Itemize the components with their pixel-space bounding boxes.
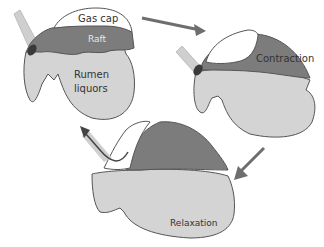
stage-contraction: Contraction <box>176 30 315 137</box>
stage-resting: Gas cap Raft Rumen liquors <box>14 8 135 119</box>
arrow-resting-to-contraction <box>142 18 206 36</box>
stage-relaxation: Relaxation <box>80 121 235 238</box>
label-contraction: Contraction <box>256 53 314 64</box>
raft-region <box>26 25 134 54</box>
label-liquors: liquors <box>74 83 108 94</box>
rumen-cycle-diagram: Gas cap Raft Rumen liquors Contraction R… <box>0 0 324 247</box>
label-rumen: Rumen <box>74 69 109 80</box>
label-raft: Raft <box>88 34 107 44</box>
arrow-contraction-to-relaxation <box>234 148 264 180</box>
label-gas-cap: Gas cap <box>78 13 118 24</box>
liquor-region <box>194 68 315 137</box>
label-relaxation: Relaxation <box>170 218 217 228</box>
